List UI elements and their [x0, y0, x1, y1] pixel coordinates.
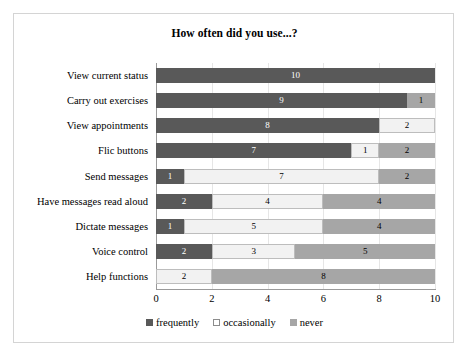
- legend-label: frequently: [156, 317, 199, 328]
- x-axis-line: [156, 289, 436, 290]
- bar-segment-occasionally: 5: [184, 219, 324, 234]
- bar-rows: 10918271217224415423528: [156, 63, 435, 289]
- bar-segment-never: 2: [379, 169, 435, 184]
- bar-row: 154: [156, 219, 435, 234]
- bar-row: 28: [156, 269, 435, 284]
- category-axis-labels: View current statusCarry out exercisesVi…: [14, 63, 152, 289]
- chart-title: How often did you use...?: [14, 27, 455, 39]
- x-axis-tick-label: 10: [430, 293, 441, 304]
- bar-segment-never: 4: [323, 219, 435, 234]
- bar-row: 244: [156, 194, 435, 209]
- chart-legend: frequentlyoccasionallynever: [14, 317, 455, 328]
- legend-swatch-icon: [146, 319, 153, 326]
- bar-segment-occasionally: 4: [212, 194, 324, 209]
- x-axis-tick-label: 6: [321, 293, 326, 304]
- category-label: Dictate messages: [10, 219, 148, 234]
- bar-segment-frequently: 9: [156, 93, 407, 108]
- bar-row: 10: [156, 68, 435, 83]
- category-label: Help functions: [10, 269, 148, 284]
- gridline: [435, 63, 436, 289]
- category-label: Flic buttons: [10, 143, 148, 158]
- legend-label: occasionally: [223, 317, 275, 328]
- legend-swatch-icon: [213, 319, 220, 326]
- bar-segment-frequently: 10: [156, 68, 435, 83]
- legend-item-frequently[interactable]: frequently: [146, 317, 199, 328]
- bar-segment-never: 5: [295, 244, 435, 259]
- bar-segment-frequently: 8: [156, 118, 379, 133]
- category-label: Have messages read aloud: [10, 194, 148, 209]
- bar-segment-frequently: 1: [156, 169, 184, 184]
- bar-row: 712: [156, 143, 435, 158]
- x-axis-tick-labels: 0246810: [156, 293, 435, 309]
- bar-segment-occasionally: 3: [212, 244, 296, 259]
- bar-segment-occasionally: 7: [184, 169, 379, 184]
- legend-item-never[interactable]: never: [290, 317, 323, 328]
- plot-area: 10918271217224415423528: [156, 63, 435, 289]
- bar-segment-occasionally: 1: [351, 143, 379, 158]
- bar-segment-never: 1: [407, 93, 435, 108]
- category-label: Send messages: [10, 169, 148, 184]
- x-axis-tick-label: 8: [377, 293, 382, 304]
- bar-segment-frequently: 7: [156, 143, 351, 158]
- bar-row: 91: [156, 93, 435, 108]
- x-axis-tick-label: 4: [265, 293, 270, 304]
- bar-segment-frequently: 2: [156, 244, 212, 259]
- bar-row: 235: [156, 244, 435, 259]
- bar-row: 172: [156, 169, 435, 184]
- bar-segment-occasionally: 2: [156, 269, 212, 284]
- legend-label: never: [300, 317, 323, 328]
- category-label: Carry out exercises: [10, 93, 148, 108]
- category-label: View current status: [10, 68, 148, 83]
- bar-segment-occasionally: 2: [379, 118, 435, 133]
- category-label: Voice control: [10, 244, 148, 259]
- legend-item-occasionally[interactable]: occasionally: [213, 317, 275, 328]
- bar-segment-never: 8: [212, 269, 435, 284]
- bar-row: 82: [156, 118, 435, 133]
- x-axis-tick-label: 0: [153, 293, 158, 304]
- bar-segment-frequently: 2: [156, 194, 212, 209]
- bar-segment-never: 2: [379, 143, 435, 158]
- bar-segment-never: 4: [323, 194, 435, 209]
- category-label: View appointments: [10, 118, 148, 133]
- bar-segment-frequently: 1: [156, 219, 184, 234]
- x-axis-tick-label: 2: [209, 293, 214, 304]
- legend-swatch-icon: [290, 319, 297, 326]
- chart-frame: How often did you use...? View current s…: [13, 13, 454, 343]
